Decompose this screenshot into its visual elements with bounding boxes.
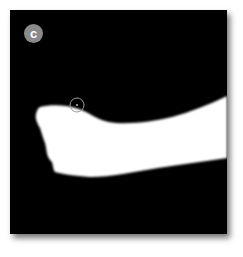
panel-label-badge: c xyxy=(24,24,43,43)
arm-silhouette xyxy=(10,10,227,234)
image-panel: c xyxy=(10,10,227,234)
